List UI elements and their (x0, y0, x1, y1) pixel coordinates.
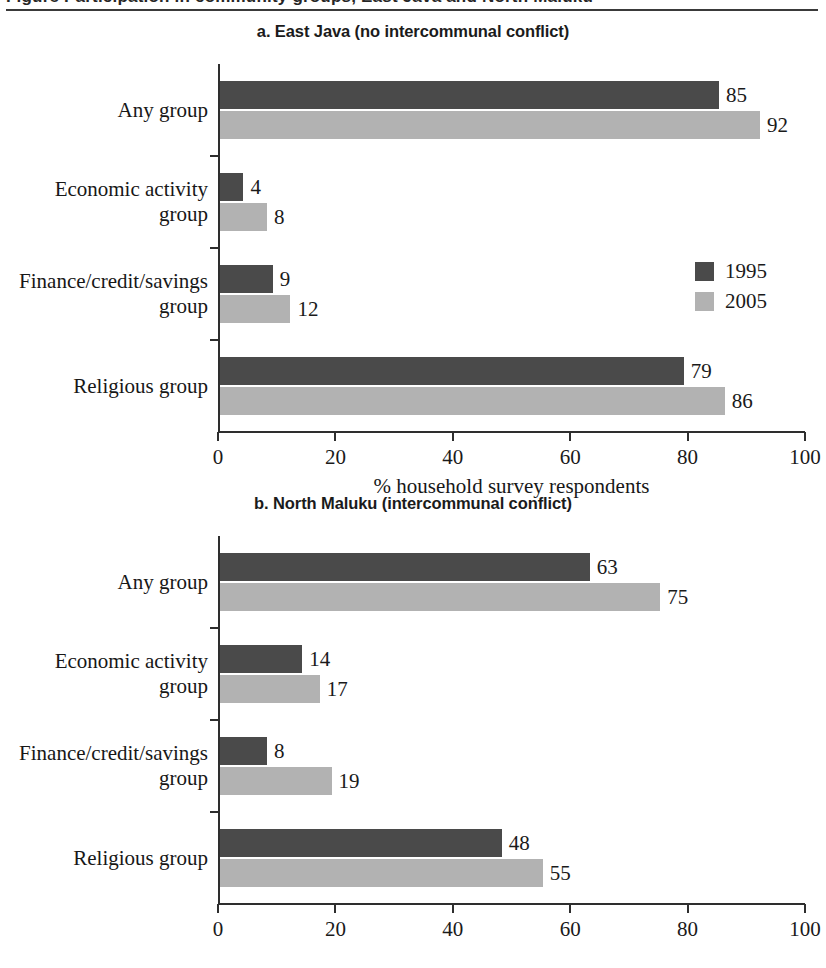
chart-a-bar-value: 79 (691, 359, 712, 384)
chart-b-x-tick (687, 904, 689, 913)
chart-a-category-label: Economic activitygroup (55, 177, 208, 227)
chart-panel-b: b. North Maluku (intercommunal conflict)… (0, 484, 826, 968)
chart-b-bar-1995 (220, 645, 302, 673)
chart-a-legend: 1995 2005 (695, 259, 767, 319)
category-label-line: group (19, 766, 208, 791)
chart-b-bar-row: 48 (220, 829, 805, 857)
chart-b-title: b. North Maluku (intercommunal conflict) (0, 494, 826, 513)
chart-b-bar-2005 (220, 583, 660, 611)
chart-a-x-tick (569, 432, 571, 441)
header-divider (6, 9, 818, 11)
chart-b-x-tick (804, 904, 806, 913)
chart-b-x-tick-label: 100 (789, 917, 821, 942)
chart-b-x-tick (334, 904, 336, 913)
chart-b-bar-row: 8 (220, 737, 805, 765)
chart-a-bar-2005 (220, 111, 760, 139)
chart-a-bar-row: 85 (220, 81, 805, 109)
chart-a-bar-row: 92 (220, 111, 805, 139)
chart-a-x-tick-label: 40 (442, 445, 463, 470)
chart-a-bar-2005 (220, 387, 725, 415)
chart-a-y-tick (210, 155, 219, 157)
chart-b-category-group: Any group6375 (220, 536, 805, 628)
category-label-line: Any group (118, 570, 208, 595)
legend-item-1995: 1995 (695, 259, 767, 284)
chart-a-x-tick-label: 80 (677, 445, 698, 470)
legend-item-2005: 2005 (695, 289, 767, 314)
chart-a-bar-1995 (220, 173, 243, 201)
chart-a-y-tick (210, 339, 219, 341)
chart-b-bar-2005 (220, 675, 320, 703)
category-label-line: group (19, 294, 208, 319)
chart-b-category-label: Finance/credit/savingsgroup (19, 741, 208, 791)
category-label-line: Religious group (73, 846, 208, 871)
chart-b-bar-row: 19 (220, 767, 805, 795)
chart-b-x-tick-label: 60 (560, 917, 581, 942)
category-label-line: Economic activity (55, 177, 208, 202)
chart-b-bar-value: 14 (309, 647, 330, 672)
chart-b-category-label: Any group (118, 570, 208, 595)
chart-b-bar-value: 19 (339, 769, 360, 794)
chart-a-category-label: Religious group (73, 374, 208, 399)
chart-b-bar-value: 75 (667, 585, 688, 610)
chart-b-bar-value: 17 (327, 677, 348, 702)
top-partial-heading-clip: Figure Participation in community groups… (0, 0, 826, 9)
chart-a-bar-1995 (220, 357, 684, 385)
chart-b-bar-value: 63 (597, 555, 618, 580)
chart-a-bar-row: 8 (220, 203, 805, 231)
top-partial-heading: Figure Participation in community groups… (6, 0, 593, 7)
chart-b-bar-value: 48 (509, 831, 530, 856)
chart-b-bar-row: 75 (220, 583, 805, 611)
legend-label-2005: 2005 (725, 289, 767, 314)
category-label-line: Finance/credit/savings (19, 741, 208, 766)
chart-b-bar-row: 55 (220, 859, 805, 887)
chart-panel-a: a. East Java (no intercommunal conflict)… (0, 14, 826, 484)
chart-a-x-tick-label: 20 (325, 445, 346, 470)
chart-a-x-tick (804, 432, 806, 441)
chart-a-bar-row: 79 (220, 357, 805, 385)
chart-a-category-group: Any group8592 (220, 64, 805, 156)
chart-b-bar-row: 14 (220, 645, 805, 673)
category-label-line: group (55, 202, 208, 227)
category-label-line: group (55, 674, 208, 699)
chart-b-bar-2005 (220, 859, 543, 887)
chart-b-x-tick (217, 904, 219, 913)
chart-b-y-tick (210, 627, 219, 629)
chart-b-x-tick-label: 0 (213, 917, 224, 942)
chart-a-bar-value: 92 (767, 113, 788, 138)
chart-b-x-tick-label: 80 (677, 917, 698, 942)
chart-b-bar-row: 63 (220, 553, 805, 581)
chart-a-bar-value: 9 (280, 267, 291, 292)
chart-b-category-label: Economic activitygroup (55, 649, 208, 699)
chart-b-category-label: Religious group (73, 846, 208, 871)
chart-a-bar-row: 86 (220, 387, 805, 415)
category-label-line: Economic activity (55, 649, 208, 674)
legend-swatch-2005-icon (695, 292, 714, 311)
category-label-line: Religious group (73, 374, 208, 399)
chart-a-x-tick-label: 60 (560, 445, 581, 470)
chart-b-bar-1995 (220, 737, 267, 765)
chart-a-category-label: Any group (118, 98, 208, 123)
chart-a-x-tick (452, 432, 454, 441)
chart-a-bar-row: 4 (220, 173, 805, 201)
category-label-line: Finance/credit/savings (19, 269, 208, 294)
chart-b-bar-1995 (220, 553, 590, 581)
chart-a-category-label: Finance/credit/savingsgroup (19, 269, 208, 319)
legend-swatch-1995-icon (695, 262, 714, 281)
chart-a-category-group: Religious group7986 (220, 340, 805, 432)
chart-a-bar-value: 86 (732, 389, 753, 414)
chart-a-category-group: Economic activitygroup48 (220, 156, 805, 248)
chart-a-x-tick (687, 432, 689, 441)
chart-b-category-group: Religious group4855 (220, 812, 805, 904)
chart-a-bar-value: 8 (274, 205, 285, 230)
chart-b-bar-value: 8 (274, 739, 285, 764)
chart-a-bar-value: 12 (297, 297, 318, 322)
chart-b-bar-value: 55 (550, 861, 571, 886)
category-label-line: Any group (118, 98, 208, 123)
chart-b-x-tick-label: 40 (442, 917, 463, 942)
chart-b-x-tick (569, 904, 571, 913)
chart-a-plot-area: 020406080100Any group8592Economic activi… (218, 64, 805, 432)
chart-a-bar-1995 (220, 265, 273, 293)
chart-b-bar-1995 (220, 829, 502, 857)
chart-a-bar-2005 (220, 203, 267, 231)
chart-a-y-tick (210, 247, 219, 249)
